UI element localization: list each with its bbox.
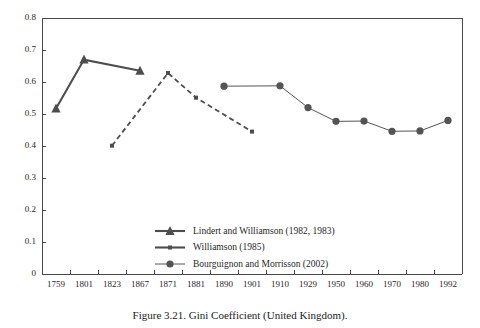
data-point-marker xyxy=(110,144,114,148)
legend-item-1[interactable]: Lindert and Williamson (1982, 1983) xyxy=(155,226,335,237)
y-axis-tick-label: 0.2 xyxy=(25,204,36,214)
x-axis-tick-label: 1901 xyxy=(243,279,261,289)
data-series-3 xyxy=(220,82,451,135)
y-axis-tick-label: 0.3 xyxy=(25,172,37,182)
y-axis-tick-labels: 0.80.70.60.50.40.30.20.10 xyxy=(25,12,46,278)
y-axis-tick-label: 0.5 xyxy=(25,108,37,118)
x-axis-tick-label: 1960 xyxy=(355,279,374,289)
data-point-marker xyxy=(194,96,198,100)
figure-caption: Figure 3.21. Gini Coefficient (United Ki… xyxy=(133,309,348,322)
chart-legend: Lindert and Williamson (1982, 1983)Willi… xyxy=(155,226,335,270)
y-axis-tick-label: 0.6 xyxy=(25,76,37,86)
data-point-marker xyxy=(276,82,283,89)
legend-label: Williamson (1985) xyxy=(193,242,265,253)
legend-marker-square-icon xyxy=(168,246,172,250)
series-line xyxy=(112,73,252,146)
x-axis-tick-label: 1970 xyxy=(383,279,402,289)
data-point-marker xyxy=(360,117,367,124)
y-axis-tick-label: 0.8 xyxy=(25,12,37,22)
data-point-marker xyxy=(388,128,395,135)
data-point-marker xyxy=(250,130,254,134)
x-axis-tick-label: 1759 xyxy=(47,279,66,289)
x-axis-tick-label: 1867 xyxy=(131,279,150,289)
x-axis-tick-label: 1980 xyxy=(411,279,430,289)
legend-label: Bourguignon and Morrisson (2002) xyxy=(193,259,328,270)
data-point-marker xyxy=(332,118,339,125)
x-axis-tick-label: 1950 xyxy=(327,279,346,289)
y-axis-tick-label: 0.4 xyxy=(25,140,37,150)
x-axis-tick-label: 1801 xyxy=(75,279,93,289)
y-axis-tick-label: 0.7 xyxy=(25,44,37,54)
x-axis-tick-label: 1929 xyxy=(299,279,318,289)
data-series-2 xyxy=(110,71,254,148)
data-series-group xyxy=(51,55,451,148)
legend-item-2[interactable]: Williamson (1985) xyxy=(155,242,265,253)
series-line xyxy=(56,60,140,109)
data-point-marker xyxy=(444,117,451,124)
legend-item-3[interactable]: Bourguignon and Morrisson (2002) xyxy=(155,259,328,270)
x-axis-tick-label: 1881 xyxy=(187,279,205,289)
y-axis-tick-label: 0.1 xyxy=(25,236,36,246)
legend-marker-circle-icon xyxy=(166,260,173,267)
x-axis-tick-labels: 1759180118231867187118811890190119101929… xyxy=(47,270,457,289)
data-point-marker xyxy=(79,55,88,64)
data-point-marker xyxy=(220,83,227,90)
data-point-marker xyxy=(166,71,170,75)
y-axis-tick-label: 0 xyxy=(32,268,37,278)
data-point-marker xyxy=(304,104,311,111)
data-point-marker xyxy=(416,127,423,134)
x-axis-tick-label: 1992 xyxy=(439,279,457,289)
x-axis-tick-label: 1823 xyxy=(103,279,122,289)
x-axis-tick-label: 1871 xyxy=(159,279,177,289)
x-axis-tick-label: 1890 xyxy=(215,279,234,289)
data-series-1 xyxy=(51,55,144,113)
figure-container: 0.80.70.60.50.40.30.20.10 17591801182318… xyxy=(0,0,480,328)
legend-label: Lindert and Williamson (1982, 1983) xyxy=(193,226,335,237)
x-axis-tick-label: 1910 xyxy=(271,279,290,289)
gini-coefficient-line-chart: 0.80.70.60.50.40.30.20.10 17591801182318… xyxy=(0,0,480,328)
